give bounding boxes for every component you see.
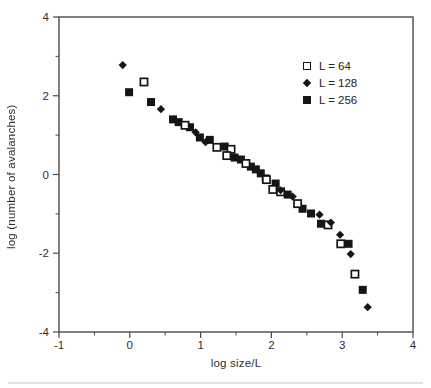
data-point-L=128 <box>347 250 355 258</box>
filled-square-marker-icon <box>303 96 319 104</box>
x-tick-label: 1 <box>197 339 203 351</box>
legend-item-l256: L = 256 <box>303 91 357 108</box>
legend-label: L = 128 <box>319 77 357 89</box>
data-point-L=256 <box>307 209 315 217</box>
scatter-plot: -101234-4-2024 <box>0 0 431 388</box>
y-tick-label: -4 <box>39 326 50 338</box>
data-point-L=128 <box>315 211 323 219</box>
data-point-L=128 <box>157 105 165 113</box>
data-point-L=128 <box>119 61 127 69</box>
filled-diamond-marker-icon <box>303 80 319 86</box>
data-point-L=64 <box>351 271 358 278</box>
data-point-L=256 <box>345 240 353 248</box>
data-point-L=64 <box>294 200 301 207</box>
x-tick-label: -1 <box>54 339 64 351</box>
data-point-L=64 <box>337 240 344 247</box>
data-point-L=64 <box>140 78 147 85</box>
y-tick-label: 4 <box>43 11 50 23</box>
data-point-L=128 <box>336 231 344 239</box>
legend: L = 64 L = 128 L = 256 <box>303 57 357 108</box>
legend-item-l128: L = 128 <box>303 74 357 91</box>
x-tick-label: 3 <box>339 339 345 351</box>
x-tick-label: 4 <box>410 339 417 351</box>
data-point-L=64 <box>223 152 230 159</box>
y-axis-label: log (number of avalanches) <box>5 98 17 256</box>
data-point-L=256 <box>125 88 133 96</box>
x-tick-label: 0 <box>127 339 133 351</box>
legend-label: L = 64 <box>319 60 351 72</box>
data-point-L=128 <box>364 303 372 311</box>
scan-artifact-line <box>8 382 423 384</box>
y-tick-label: 0 <box>43 169 49 181</box>
legend-item-l64: L = 64 <box>303 57 357 74</box>
data-point-L=64 <box>181 122 188 129</box>
x-tick-label: 2 <box>268 339 274 351</box>
data-point-L=256 <box>147 98 155 106</box>
x-axis-label: log size/L <box>59 357 413 369</box>
open-square-marker-icon <box>303 62 319 70</box>
data-point-L=64 <box>213 144 220 151</box>
plot-frame <box>59 17 413 332</box>
data-point-L=64 <box>263 176 270 183</box>
y-tick-label: -2 <box>39 247 49 259</box>
figure: -101234-4-2024 L = 64 L = 128 L = 256 lo… <box>0 0 431 388</box>
legend-label: L = 256 <box>319 94 357 106</box>
data-point-L=64 <box>242 160 249 167</box>
data-point-L=64 <box>269 186 276 193</box>
data-point-L=256 <box>359 286 367 294</box>
y-tick-label: 2 <box>43 90 49 102</box>
